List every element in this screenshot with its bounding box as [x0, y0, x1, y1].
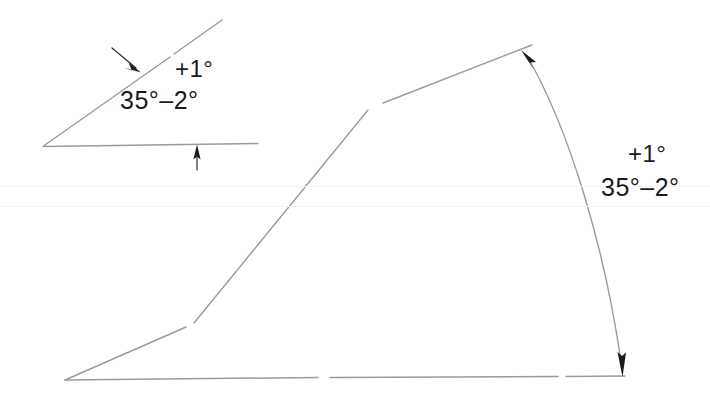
- small-angle-nominal-label: 35°–2°: [120, 88, 199, 113]
- technical-drawing-svg: [0, 0, 710, 408]
- small-angle-upper-tolerance-label: +1°: [175, 57, 213, 81]
- large-angle-inclined-line-seg1: [65, 327, 186, 380]
- small-angle-inclined-leader-line: [112, 48, 136, 68]
- large-angle-baseline-right: [566, 376, 625, 377]
- large-angle-inclined-line-seg3: [383, 45, 532, 103]
- large-angle-upper-tolerance-label: +1°: [628, 142, 666, 166]
- large-angle-inclined-line-seg2: [194, 110, 368, 323]
- arrow-down-icon: [618, 352, 627, 377]
- large-angle-baseline-left: [65, 378, 318, 381]
- drawing-canvas: +1° 35°–2° +1° 35°–2°: [0, 0, 710, 408]
- large-angle-dimension-arc: [527, 56, 621, 362]
- arrow-down-right-icon: [124, 63, 141, 73]
- small-angle-inclined-line-upper: [174, 20, 222, 54]
- large-angle-nominal-label: 35°–2°: [601, 175, 680, 200]
- small-angle-horizontal-line: [43, 144, 258, 147]
- large-angle-baseline-middle: [330, 377, 558, 378]
